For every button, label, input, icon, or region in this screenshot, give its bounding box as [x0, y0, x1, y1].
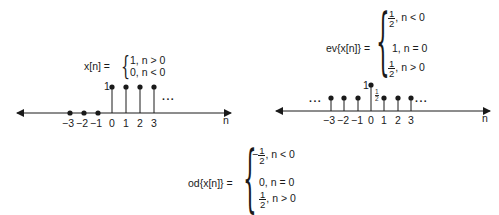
tick-label: −1 [351, 114, 363, 126]
od-case-1: −12, n < 0 [252, 146, 295, 165]
axis-label-n: n [223, 114, 229, 126]
tick-label: 3 [408, 114, 414, 126]
x-case-1: 1, n > 0 [130, 54, 165, 66]
stem [408, 95, 413, 111]
tick-label: 1 [381, 114, 387, 126]
ev-case-2: 1, n = 0 [392, 42, 427, 54]
axis-label-n: n [482, 112, 488, 124]
ev-lhs: ev{x[n]} = [326, 42, 370, 54]
value-label: 1 [104, 80, 110, 92]
sample-dot [81, 110, 86, 115]
value-label: 1 [363, 79, 369, 91]
tick-label: 0 [109, 117, 115, 129]
half-value-label: 12 [375, 89, 379, 102]
stem [151, 84, 156, 113]
ellipsis-right: · · · [415, 95, 426, 107]
tick-label: −3 [323, 114, 335, 126]
x-case-2: 0, n < 0 [130, 66, 165, 78]
x-lhs: x[n] = [84, 60, 110, 72]
tick-label: −1 [90, 117, 102, 129]
tick-label: 0 [368, 114, 374, 126]
tick-label: 1 [123, 117, 129, 129]
od-case-3: 12, n > 0 [259, 190, 296, 209]
stem [328, 95, 333, 111]
tick-label: −2 [337, 114, 349, 126]
sample-dot [67, 110, 72, 115]
stem [341, 95, 346, 111]
tick-label: 2 [395, 114, 401, 126]
ellipsis-left: · · · [309, 95, 320, 107]
od-lhs: od{x[n]} = [188, 177, 233, 189]
od-case-2: 0, n = 0 [259, 176, 294, 188]
sample-dot [95, 110, 100, 115]
stem [109, 84, 114, 113]
ev-case-1: 12, n < 0 [388, 9, 425, 28]
ev-case-3: 12, n > 0 [388, 59, 425, 78]
stem [395, 95, 400, 111]
left-brace: { [121, 53, 130, 79]
x-signal-plot [17, 84, 231, 115]
stem [137, 84, 142, 113]
tick-label: 2 [137, 117, 143, 129]
ellipsis: · · · [162, 93, 173, 105]
stem [381, 95, 386, 111]
tick-label: −2 [76, 117, 88, 129]
tick-label: −3 [62, 117, 74, 129]
stem [123, 84, 128, 113]
tick-label: 3 [151, 117, 157, 129]
stem [368, 82, 373, 111]
stem [355, 95, 360, 111]
